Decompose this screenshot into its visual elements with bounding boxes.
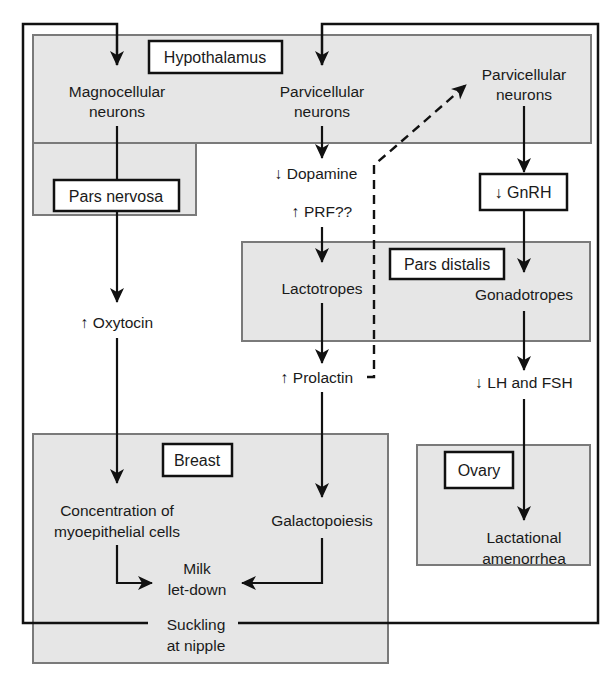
breast-label: Breast (174, 452, 221, 469)
amenorrhea-line2: amenorrhea (482, 550, 566, 567)
parvicellular-neurons-a-line2: neurons (294, 103, 350, 120)
lh-fsh-label: ↓ LH and FSH (475, 374, 572, 391)
magnocellular-neurons-line2: neurons (89, 103, 145, 120)
gonadotropes-label: Gonadotropes (475, 286, 573, 303)
myoepithelial-line1: Concentration of (60, 502, 174, 519)
prf-label: ↑ PRF?? (292, 203, 353, 220)
pars-nervosa-label: Pars nervosa (69, 188, 163, 205)
prolactin-label: ↑ Prolactin (281, 369, 353, 386)
ovary-label: Ovary (458, 462, 501, 479)
myoepithelial-line2: myoepithelial cells (54, 523, 180, 540)
suckling-line2: at nipple (167, 637, 226, 654)
pars-distalis-label: Pars distalis (404, 256, 490, 273)
dopamine-label: ↓ Dopamine (275, 165, 358, 182)
parvicellular-neurons-b-line2: neurons (496, 86, 552, 103)
galactopoiesis-label: Galactopoiesis (271, 512, 373, 529)
parvicellular-neurons-a-line1: Parvicellular (280, 83, 364, 100)
milk-letdown-line2: let-down (168, 581, 227, 598)
magnocellular-neurons-line1: Magnocellular (69, 83, 166, 100)
milk-letdown-line1: Milk (183, 560, 211, 577)
suckling-line1: Suckling (167, 616, 226, 633)
oxytocin-label: ↑ Oxytocin (81, 314, 153, 331)
amenorrhea-line1: Lactational (487, 529, 562, 546)
lactation-neuroendocrine-diagram: Hypothalamus Pars nervosa Pars distalis … (0, 0, 614, 679)
gnrh-label: ↓ GnRH (495, 184, 552, 201)
parvicellular-neurons-b-line1: Parvicellular (482, 66, 566, 83)
lactotropes-label: Lactotropes (282, 280, 363, 297)
hypothalamus-label: Hypothalamus (164, 49, 266, 66)
